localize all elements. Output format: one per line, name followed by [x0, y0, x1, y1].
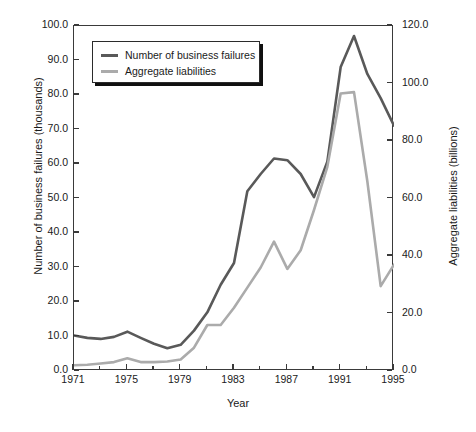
legend-item-number-of-business-failures: Number of business failures	[101, 47, 259, 63]
x-axis-tick-label: 1971	[61, 374, 84, 385]
y-axis-left-tick-mark	[74, 24, 79, 25]
x-axis-tick-label: 1991	[328, 374, 351, 385]
y-axis-right-tick-label: 40.0	[402, 249, 422, 260]
x-axis-minor-tick-mark	[366, 366, 367, 370]
y-axis-left-tick-mark	[74, 59, 79, 60]
chart-figure: 0.010.020.030.040.050.060.070.080.090.01…	[0, 0, 476, 432]
y-axis-left-tick-mark	[74, 266, 79, 267]
x-axis-major-tick-mark	[72, 364, 73, 370]
x-axis-minor-tick-mark	[206, 366, 207, 370]
y-axis-right-tick-label: 20.0	[402, 307, 422, 318]
x-axis-tick-label: 1995	[381, 374, 404, 385]
y-axis-left-tick-label: 40.0	[48, 226, 68, 237]
y-axis-left-tick-label: 100.0	[42, 19, 68, 30]
x-axis-tick-label: 1983	[221, 374, 244, 385]
x-axis-tick-label: 1987	[275, 374, 298, 385]
y-axis-left-tick-label: 20.0	[48, 295, 68, 306]
y-axis-left-tick-mark	[74, 300, 79, 301]
y-axis-left-tick-label: 90.0	[48, 54, 68, 65]
y-axis-left-tick-mark	[74, 93, 79, 94]
y-axis-right-tick-mark	[387, 254, 392, 255]
y-axis-left-tick-mark	[74, 128, 79, 129]
legend-swatch-icon	[101, 70, 118, 73]
y-axis-left-tick-label: 70.0	[48, 123, 68, 134]
y-axis-left-tick-mark	[74, 197, 79, 198]
y-axis-left-tick-label: 60.0	[48, 157, 68, 168]
x-axis-minor-tick-mark	[152, 366, 153, 370]
x-axis-tick-labels: 1971197519791983198719911995	[0, 374, 476, 392]
y-axis-right-tick-labels: 0.020.040.060.080.0100.0120.0	[402, 0, 446, 432]
y-axis-left-tick-mark	[74, 369, 79, 370]
y-axis-left-tick-mark	[74, 162, 79, 163]
x-axis-major-tick-mark	[179, 364, 180, 370]
x-axis-minor-tick-mark	[99, 366, 100, 370]
x-axis-title: Year	[0, 397, 476, 409]
y-axis-right-tick-mark	[387, 197, 392, 198]
x-axis-major-tick-mark	[232, 364, 233, 370]
x-axis-major-tick-mark	[286, 364, 287, 370]
series-line-aggregate-liabilities	[74, 92, 394, 365]
y-axis-right-tick-label: 80.0	[402, 134, 422, 145]
y-axis-left-tick-label: 30.0	[48, 261, 68, 272]
y-axis-right-title: Aggregate liabilities (billions)	[447, 76, 459, 316]
y-axis-right-tick-mark	[387, 24, 392, 25]
legend-item-aggregate-liabilities: Aggregate liabilities	[101, 63, 259, 79]
x-axis-tick-label: 1979	[168, 374, 191, 385]
x-axis-major-tick-mark	[392, 364, 393, 370]
legend-swatch-icon	[101, 54, 118, 57]
x-axis-minor-tick-mark	[312, 366, 313, 370]
y-axis-right-tick-mark	[387, 82, 392, 83]
y-axis-right-tick-label: 100.0	[402, 77, 428, 88]
y-axis-right-tick-mark	[387, 369, 392, 370]
y-axis-left-tick-mark	[74, 231, 79, 232]
y-axis-left-title: Number of business failures (thousands)	[32, 56, 44, 296]
y-axis-right-tick-mark	[387, 312, 392, 313]
y-axis-left-tick-label: 50.0	[48, 192, 68, 203]
chart-legend: Number of business failures Aggregate li…	[92, 41, 260, 83]
y-axis-right-tick-label: 120.0	[402, 19, 428, 30]
y-axis-right-tick-mark	[387, 139, 392, 140]
y-axis-left-tick-label: 10.0	[48, 330, 68, 341]
y-axis-left-tick-mark	[74, 335, 79, 336]
legend-label: Aggregate liabilities	[125, 66, 216, 77]
legend-label: Number of business failures	[125, 50, 255, 61]
y-axis-right-tick-label: 60.0	[402, 192, 422, 203]
x-axis-minor-tick-mark	[259, 366, 260, 370]
x-axis-major-tick-mark	[339, 364, 340, 370]
y-axis-left-tick-label: 80.0	[48, 88, 68, 99]
x-axis-tick-label: 1975	[115, 374, 138, 385]
x-axis-major-tick-mark	[126, 364, 127, 370]
